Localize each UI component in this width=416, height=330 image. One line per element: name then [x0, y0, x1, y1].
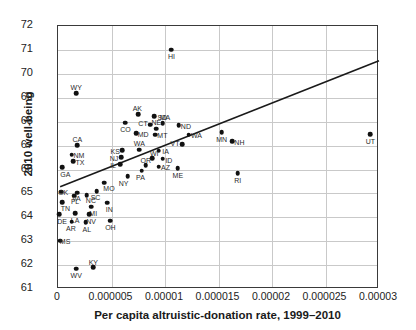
scatter-chart: 2010 well-being 616263646566676869707172…: [0, 0, 416, 330]
data-point-label: RI: [234, 177, 241, 184]
data-point-label: PA: [136, 174, 145, 181]
data-point: [120, 148, 125, 153]
y-tick-label: 71: [7, 43, 33, 54]
data-point: [74, 266, 79, 271]
y-tick-label: 63: [7, 234, 33, 245]
data-point-label: FL: [71, 198, 79, 205]
y-tick-label: 70: [7, 67, 33, 78]
data-point: [87, 212, 92, 217]
x-tick-label: 0: [54, 291, 60, 302]
data-point: [119, 155, 124, 160]
data-point-label: HI: [168, 53, 175, 60]
plot-area: HIWYAKSDCOCTMANDNEMDMTWACAVTKSWAIANMNJWI…: [57, 25, 378, 288]
data-point: [368, 132, 373, 137]
data-point: [169, 48, 174, 53]
data-point-label: AL: [83, 226, 92, 233]
data-point-label: CO: [120, 126, 131, 133]
data-point: [180, 142, 185, 147]
data-point-label: NJ: [110, 155, 119, 162]
data-point-label: ND: [181, 123, 191, 130]
y-tick-label: 62: [7, 258, 33, 269]
x-tick-label: 0.000025: [303, 291, 347, 302]
data-point-label: NE: [152, 119, 162, 126]
data-point-label: IN: [106, 206, 113, 213]
data-point: [89, 204, 94, 209]
data-point: [118, 162, 123, 167]
data-point-label: WA: [191, 132, 202, 139]
data-point-label: IL: [110, 162, 116, 169]
data-point: [70, 219, 75, 224]
data-point-label: AR: [66, 225, 76, 232]
data-point-label: MD: [138, 131, 149, 138]
data-point-label: CA: [72, 136, 82, 143]
y-tick-label: 69: [7, 91, 33, 102]
data-point-label: WA: [134, 140, 145, 147]
x-tick-label: 0.00001: [145, 291, 183, 302]
x-tick-label: 0.00002: [252, 291, 290, 302]
data-point-label: WI: [150, 150, 159, 157]
data-point-label: MS: [60, 238, 71, 245]
data-point: [105, 201, 110, 206]
data-point: [123, 121, 128, 126]
x-tick-label: 0.00003: [359, 291, 397, 302]
data-point-label: AZ: [161, 164, 170, 171]
data-point-label: CT: [138, 120, 147, 127]
data-point-label: VT: [171, 140, 180, 147]
x-tick-label: 0.000005: [89, 291, 133, 302]
data-point-label: TN: [61, 205, 70, 212]
data-point-label: UT: [366, 138, 375, 145]
data-point-label: OH: [105, 224, 116, 231]
data-point-label: WY: [71, 84, 82, 91]
data-point-label: AK: [133, 105, 142, 112]
y-tick-label: 64: [7, 210, 33, 221]
data-point: [57, 212, 62, 217]
data-point-label: OR: [140, 157, 151, 164]
data-point-label: NC: [86, 197, 96, 204]
data-point-label: OK: [58, 189, 68, 196]
data-point: [136, 112, 141, 117]
data-point-label: ME: [173, 172, 184, 179]
y-tick-label: 72: [7, 19, 33, 30]
y-tick-label: 66: [7, 163, 33, 174]
data-point: [236, 171, 241, 176]
y-tick-label: 67: [7, 139, 33, 150]
data-point: [84, 220, 89, 225]
data-point-label: NY: [119, 180, 129, 187]
data-point: [219, 130, 224, 135]
x-tick-label: 0.000015: [196, 291, 240, 302]
data-point-label: KY: [89, 259, 98, 266]
data-point-label: TX: [76, 159, 85, 166]
data-point: [139, 168, 144, 173]
data-point: [75, 143, 80, 148]
data-point-label: WV: [71, 272, 82, 279]
data-point: [152, 114, 157, 119]
data-point-label: MT: [157, 132, 167, 139]
y-tick-label: 65: [7, 186, 33, 197]
y-tick-label: 68: [7, 115, 33, 126]
data-point: [60, 165, 65, 170]
data-point: [73, 211, 78, 216]
data-point-label: NH: [234, 139, 244, 146]
data-point: [137, 148, 142, 153]
data-point: [74, 91, 79, 96]
data-point: [108, 219, 113, 224]
data-point-label: IA: [162, 148, 169, 155]
data-point: [154, 127, 159, 132]
y-tick-label: 61: [7, 282, 33, 293]
data-point: [125, 174, 130, 179]
data-point-label: MN: [216, 136, 227, 143]
trend-line: [58, 26, 379, 289]
data-point-label: GA: [60, 171, 70, 178]
data-point-label: DE: [57, 218, 67, 225]
data-point: [176, 166, 181, 171]
x-axis-label: Per capita altruistic-donation rate, 199…: [57, 309, 378, 321]
data-point-label: MO: [103, 185, 114, 192]
